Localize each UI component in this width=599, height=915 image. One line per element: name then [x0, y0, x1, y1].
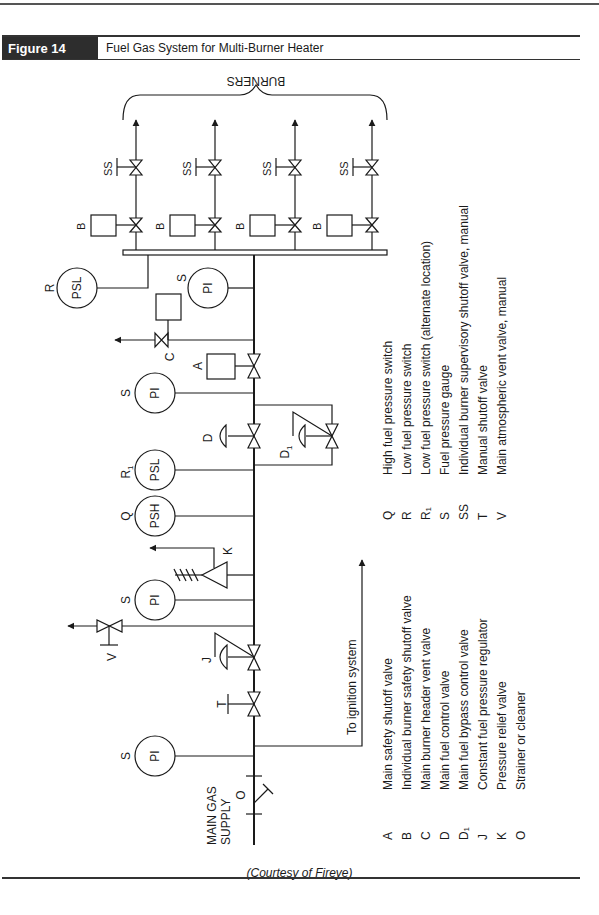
- legend-code: T: [476, 512, 490, 520]
- legend-code: V: [495, 512, 509, 520]
- legend-code: S: [438, 512, 452, 520]
- tag-d: D: [201, 433, 215, 442]
- ss-label: SS: [338, 161, 350, 176]
- strainer-o: [246, 776, 273, 814]
- main-safety-valve-a: [207, 354, 260, 379]
- burner-header-manifold: [123, 250, 387, 255]
- tag-q: Q: [119, 511, 133, 520]
- legend-code: A: [381, 832, 395, 840]
- tag-j: J: [200, 657, 214, 663]
- tag-v: V: [105, 653, 119, 661]
- bottom-rule: [2, 877, 580, 879]
- legend-desc: Manual shutoff valve: [476, 365, 490, 475]
- manual-shutoff-t: [228, 692, 260, 716]
- main-supply-label-1: MAIN GAS: [205, 786, 219, 845]
- tag-s: S: [175, 274, 189, 282]
- b-label: B: [75, 223, 87, 230]
- vent-valve-c: [115, 294, 254, 347]
- tag-c: C: [163, 352, 177, 361]
- relief-valve-k: [150, 548, 254, 588]
- burners-group: BURNERS: [123, 74, 387, 120]
- tag-t: T: [215, 700, 229, 708]
- legend-code: O: [514, 831, 528, 840]
- legend-desc: Main fuel control valve: [438, 670, 452, 790]
- psh-q-text: PSH: [148, 504, 162, 529]
- psl-r-text: PSL: [70, 276, 84, 299]
- ss-label: SS: [102, 161, 114, 176]
- legend-desc: Low fuel pressure switch: [400, 344, 414, 475]
- ss-label: SS: [181, 161, 193, 176]
- legend-desc: Fuel pressure gauge: [438, 365, 452, 475]
- b-label: B: [311, 223, 323, 230]
- legend-desc: Low fuel pressure switch (alternate loca…: [419, 241, 433, 475]
- legend-desc: Main burner header vent valve: [419, 628, 433, 790]
- legend-left: A Main safety shutoff valve B Individual…: [381, 595, 528, 840]
- fuel-gas-diagram: BURNERS: [0, 0, 599, 915]
- bypass-valve-d1: [254, 405, 338, 465]
- legend-code: D: [438, 831, 452, 840]
- tag-r1: R1: [119, 465, 135, 479]
- legend-desc: Constant fuel pressure regulator: [476, 619, 490, 790]
- tag-r: R: [43, 283, 57, 292]
- legend-desc: Individual burner supervisory shutoff va…: [457, 205, 471, 475]
- burners-brace: [123, 85, 387, 120]
- legend-code: C: [419, 831, 433, 840]
- legend-desc: Main fuel bypass control valve: [457, 629, 471, 790]
- psl-r1-text: PSL: [148, 458, 162, 481]
- tag-d1: D1: [278, 445, 294, 459]
- pi-header-text: PI: [201, 282, 215, 293]
- control-valve-d: [220, 424, 260, 448]
- legend-desc: Strainer or cleaner: [514, 691, 528, 790]
- legend-desc: Pressure relief valve: [495, 681, 509, 790]
- legend-desc: Individual burner safety shutoff valve: [400, 595, 414, 790]
- legend-code: SS: [457, 504, 471, 520]
- ignition-label: To ignition system: [345, 640, 359, 735]
- tag-s: S: [119, 752, 133, 760]
- pi-mid-text: PI: [148, 387, 162, 398]
- burner-branches: [91, 120, 378, 253]
- legend-code: D₁: [457, 827, 471, 840]
- tag-s: S: [119, 596, 133, 604]
- pi-bottom-text: PI: [148, 750, 162, 761]
- pi-gauge-header: [188, 268, 254, 308]
- legend-code: R₁: [419, 507, 433, 520]
- pi-lower-text: PI: [148, 594, 162, 605]
- legend-desc: High fuel pressure switch: [381, 341, 395, 475]
- legend-code: K: [495, 832, 509, 840]
- atmos-vent-valve-v: [68, 620, 254, 645]
- tag-k: K: [221, 547, 235, 555]
- legend-code: Q: [381, 511, 395, 520]
- legend-desc: Main atmospheric vent valve, manual: [495, 277, 509, 475]
- burner-branch-3: [250, 120, 301, 253]
- legend-code: B: [400, 832, 414, 840]
- burner-branch-4: [327, 120, 378, 253]
- legend-desc: Main safety shutoff valve: [381, 658, 395, 790]
- b-label: B: [234, 223, 246, 230]
- legend-code: J: [476, 834, 490, 840]
- burner-branch-1: [91, 120, 142, 253]
- legend-right: Q High fuel pressure switch R Low fuel p…: [381, 205, 509, 520]
- tag-s: S: [119, 389, 133, 397]
- burner-branch-2: [170, 120, 221, 253]
- b-label: B: [154, 223, 166, 230]
- tag-o: O: [234, 790, 248, 799]
- legend-code: R: [400, 511, 414, 520]
- tag-a: A: [191, 362, 205, 370]
- ss-label: SS: [261, 161, 273, 176]
- main-supply-label-2: SUPPLY: [219, 799, 233, 845]
